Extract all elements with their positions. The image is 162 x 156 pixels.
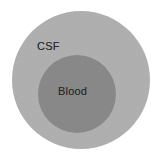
diagram-svg bbox=[0, 0, 162, 156]
blood-region-label: Blood bbox=[58, 85, 87, 97]
csf-region-label: CSF bbox=[37, 40, 60, 52]
nested-circle-diagram: CSF Blood bbox=[0, 0, 162, 156]
